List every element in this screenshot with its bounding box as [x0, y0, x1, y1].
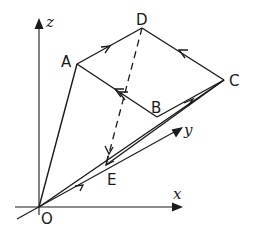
z-axis-label: z [45, 13, 54, 31]
edge-DC [142, 28, 224, 80]
edge-CE [106, 80, 224, 165]
y-axis-arrowhead-icon [172, 127, 184, 138]
edge-BC [157, 80, 224, 117]
point-label-B: B [151, 99, 161, 117]
edge-DE-dashed [106, 28, 142, 165]
point-label-D: D [136, 11, 148, 29]
arrow-DE-icon [105, 146, 113, 154]
vector-diagram: z x y A D C B E O [0, 0, 253, 232]
point-label-C: C [229, 72, 239, 90]
point-label-O: O [41, 210, 53, 228]
z-axis-arrowhead-icon [35, 18, 44, 29]
point-label-E: E [107, 171, 116, 189]
arrow-OC-icon [75, 185, 83, 191]
x-axis-label: x [173, 185, 182, 203]
x-axis-arrowhead-icon [172, 203, 183, 212]
point-label-A: A [61, 53, 72, 71]
y-axis-label: y [183, 121, 193, 139]
edge-OC [39, 80, 224, 207]
edge-AB [77, 64, 157, 117]
